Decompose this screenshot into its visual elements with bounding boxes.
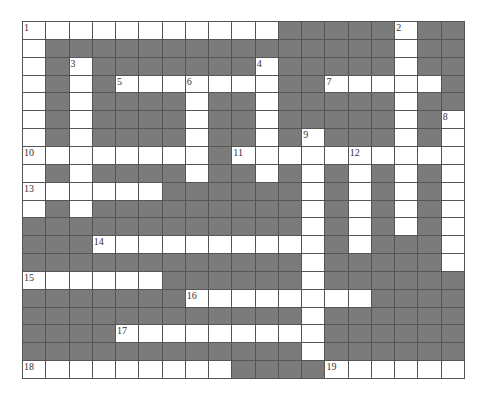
answer-cell[interactable]: [209, 325, 231, 342]
answer-cell[interactable]: [418, 147, 440, 164]
answer-cell[interactable]: [70, 183, 92, 200]
answer-cell[interactable]: [23, 111, 45, 128]
answer-cell[interactable]: [395, 218, 417, 235]
answer-cell[interactable]: [302, 201, 324, 218]
answer-cell[interactable]: [302, 254, 324, 271]
answer-cell[interactable]: [442, 201, 464, 218]
answer-cell[interactable]: [93, 22, 115, 39]
answer-cell[interactable]: [349, 218, 371, 235]
answer-cell[interactable]: [163, 76, 185, 93]
answer-cell[interactable]: [302, 165, 324, 182]
answer-cell[interactable]: [395, 361, 417, 378]
answer-cell[interactable]: [163, 147, 185, 164]
answer-cell[interactable]: [256, 325, 278, 342]
answer-cell[interactable]: [46, 272, 68, 289]
answer-cell[interactable]: [139, 361, 161, 378]
answer-cell[interactable]: [325, 147, 347, 164]
answer-cell[interactable]: [256, 290, 278, 307]
answer-cell[interactable]: [139, 183, 161, 200]
answer-cell[interactable]: [163, 325, 185, 342]
answer-cell[interactable]: [256, 147, 278, 164]
answer-cell[interactable]: [116, 272, 138, 289]
answer-cell[interactable]: [70, 22, 92, 39]
answer-cell[interactable]: [23, 93, 45, 110]
answer-cell[interactable]: [418, 76, 440, 93]
answer-cell[interactable]: [442, 254, 464, 271]
answer-cell[interactable]: [163, 22, 185, 39]
answer-cell[interactable]: [23, 165, 45, 182]
answer-cell[interactable]: 19: [325, 361, 347, 378]
answer-cell[interactable]: [70, 272, 92, 289]
answer-cell[interactable]: [232, 76, 254, 93]
answer-cell[interactable]: [349, 361, 371, 378]
answer-cell[interactable]: [395, 76, 417, 93]
answer-cell[interactable]: [23, 58, 45, 75]
answer-cell[interactable]: [23, 40, 45, 57]
answer-cell[interactable]: [186, 165, 208, 182]
answer-cell[interactable]: 15: [23, 272, 45, 289]
answer-cell[interactable]: [186, 129, 208, 146]
answer-cell[interactable]: [46, 361, 68, 378]
answer-cell[interactable]: [209, 76, 231, 93]
answer-cell[interactable]: [93, 361, 115, 378]
answer-cell[interactable]: [442, 147, 464, 164]
answer-cell[interactable]: [349, 290, 371, 307]
answer-cell[interactable]: [186, 236, 208, 253]
answer-cell[interactable]: [372, 76, 394, 93]
answer-cell[interactable]: 14: [93, 236, 115, 253]
answer-cell[interactable]: [256, 111, 278, 128]
answer-cell[interactable]: [442, 183, 464, 200]
answer-cell[interactable]: [70, 147, 92, 164]
answer-cell[interactable]: [279, 147, 301, 164]
answer-cell[interactable]: [302, 147, 324, 164]
answer-cell[interactable]: [395, 165, 417, 182]
answer-cell[interactable]: [256, 129, 278, 146]
answer-cell[interactable]: [70, 111, 92, 128]
answer-cell[interactable]: [442, 218, 464, 235]
answer-cell[interactable]: [302, 308, 324, 325]
answer-cell[interactable]: [139, 22, 161, 39]
answer-cell[interactable]: [256, 93, 278, 110]
answer-cell[interactable]: [349, 165, 371, 182]
answer-cell[interactable]: 4: [256, 58, 278, 75]
answer-cell[interactable]: [70, 93, 92, 110]
answer-cell[interactable]: [302, 325, 324, 342]
answer-cell[interactable]: [256, 22, 278, 39]
answer-cell[interactable]: [23, 129, 45, 146]
answer-cell[interactable]: [418, 361, 440, 378]
answer-cell[interactable]: [93, 147, 115, 164]
answer-cell[interactable]: [256, 165, 278, 182]
answer-cell[interactable]: [372, 147, 394, 164]
answer-cell[interactable]: [70, 361, 92, 378]
answer-cell[interactable]: [325, 290, 347, 307]
answer-cell[interactable]: [279, 290, 301, 307]
answer-cell[interactable]: [186, 93, 208, 110]
answer-cell[interactable]: [395, 58, 417, 75]
answer-cell[interactable]: [70, 165, 92, 182]
answer-cell[interactable]: [302, 183, 324, 200]
answer-cell[interactable]: [395, 183, 417, 200]
answer-cell[interactable]: 3: [70, 58, 92, 75]
answer-cell[interactable]: [209, 361, 231, 378]
answer-cell[interactable]: 10: [23, 147, 45, 164]
answer-cell[interactable]: [395, 40, 417, 57]
answer-cell[interactable]: [395, 129, 417, 146]
answer-cell[interactable]: [116, 22, 138, 39]
answer-cell[interactable]: [139, 76, 161, 93]
answer-cell[interactable]: [442, 236, 464, 253]
answer-cell[interactable]: [186, 22, 208, 39]
answer-cell[interactable]: [302, 272, 324, 289]
answer-cell[interactable]: [163, 236, 185, 253]
answer-cell[interactable]: 7: [325, 76, 347, 93]
answer-cell[interactable]: 11: [232, 147, 254, 164]
answer-cell[interactable]: [395, 93, 417, 110]
answer-cell[interactable]: 9: [302, 129, 324, 146]
answer-cell[interactable]: [186, 147, 208, 164]
answer-cell[interactable]: [232, 325, 254, 342]
answer-cell[interactable]: [93, 183, 115, 200]
answer-cell[interactable]: [93, 272, 115, 289]
answer-cell[interactable]: 2: [395, 22, 417, 39]
answer-cell[interactable]: 6: [186, 76, 208, 93]
answer-cell[interactable]: [395, 147, 417, 164]
answer-cell[interactable]: 12: [349, 147, 371, 164]
